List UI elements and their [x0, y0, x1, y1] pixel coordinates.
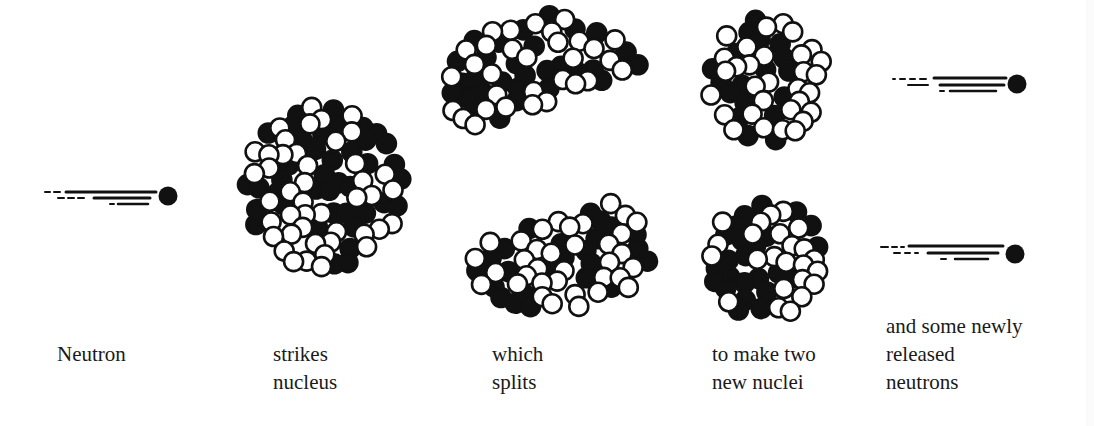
incoming-neutron-icon	[159, 187, 178, 206]
neutron-particle-icon	[783, 22, 802, 41]
neutron-particle-icon	[482, 64, 501, 83]
neutron-particle-icon	[245, 164, 264, 183]
motion-trail-icon	[45, 192, 156, 204]
neutron-particle-icon	[312, 257, 331, 276]
neutron-particle-icon	[298, 156, 317, 175]
neutron-particle-icon	[702, 86, 721, 105]
fission-diagram: Neutron strikes nucleus which splits to …	[0, 0, 1094, 426]
neutron-particle-icon	[564, 49, 583, 68]
released-neutron-2-group	[881, 245, 1025, 264]
label-strikes-line-1: strikes	[273, 340, 337, 368]
neutron-particle-icon	[565, 236, 584, 255]
neutron-particle-icon	[549, 33, 568, 52]
neutron-particle-icon	[284, 252, 303, 271]
label-neutron: Neutron	[57, 340, 126, 368]
neutron-particle-icon	[789, 219, 808, 238]
neutron-particle-icon	[501, 21, 520, 40]
neutron-particle-icon	[523, 95, 542, 114]
neutron-particle-icon	[442, 67, 461, 86]
neutron-particle-icon	[357, 237, 376, 256]
neutron-particle-icon	[724, 120, 743, 139]
neutron-particle-icon	[384, 181, 403, 200]
label-which-splits: which splits	[492, 340, 543, 396]
incoming-neutron-group	[45, 187, 178, 206]
neutron-particle-icon	[517, 48, 536, 67]
neutron-particle-icon	[542, 244, 561, 263]
neutron-particle-icon	[713, 213, 732, 232]
neutron-particle-icon	[260, 192, 279, 211]
neutron-particle-icon	[347, 188, 366, 207]
neutron-particle-icon	[748, 250, 767, 269]
label-to-make-line-1: to make two	[712, 340, 816, 368]
neutron-particle-icon	[465, 55, 484, 74]
proton-icon	[377, 134, 396, 153]
page-edge	[1086, 0, 1094, 426]
label-to-make-line-2: new nuclei	[712, 368, 816, 396]
motion-trail-icon	[881, 246, 1003, 259]
label-strikes-line-2: nucleus	[273, 368, 337, 396]
nuclei-layer	[238, 6, 831, 321]
neutron-particle-icon	[569, 297, 588, 316]
new-nucleus-1	[702, 11, 831, 149]
neutron-particle-icon	[589, 283, 608, 302]
target-nucleus	[238, 98, 410, 276]
label-released-line-3: neutrons	[886, 368, 1022, 396]
neutron-particle-icon	[719, 292, 738, 311]
released-neutron-1-icon	[1008, 75, 1027, 94]
neutron-particle-icon	[508, 274, 527, 293]
neutron-particle-icon	[717, 26, 736, 45]
neutron-particle-icon	[533, 220, 552, 239]
neutron-particle-icon	[774, 279, 793, 298]
neutron-particle-icon	[481, 233, 500, 252]
neutron-particle-icon	[737, 38, 756, 57]
label-which-line-1: which	[492, 340, 543, 368]
proton-icon	[320, 181, 339, 200]
label-strikes-nucleus: strikes nucleus	[273, 340, 337, 396]
label-which-line-2: splits	[492, 368, 543, 396]
neutron-particle-icon	[472, 275, 491, 294]
neutron-particle-icon	[786, 121, 805, 140]
label-to-make-two-new-nuclei: to make two new nuclei	[712, 340, 816, 396]
neutron-particle-icon	[543, 294, 562, 313]
neutron-particle-icon	[777, 253, 796, 272]
neutron-particle-icon	[716, 62, 735, 81]
label-released-line-2: released	[886, 340, 1022, 368]
neutron-particle-icon	[300, 114, 319, 133]
neutron-particle-icon	[585, 39, 604, 58]
neutron-particle-icon	[560, 218, 579, 237]
motion-trail-icon	[893, 78, 1006, 91]
neutron-particle-icon	[613, 61, 632, 80]
released-neutron-1-group	[893, 75, 1027, 94]
neutron-particle-icon	[702, 247, 721, 266]
released-neutron-2-icon	[1006, 245, 1025, 264]
new-nucleus-2	[702, 196, 827, 321]
fragment-top	[442, 6, 647, 134]
neutron-particle-icon	[757, 18, 776, 37]
label-released-line-1: and some newly	[886, 312, 1022, 340]
label-neutron-line-1: Neutron	[57, 340, 126, 368]
neutron-particle-icon	[466, 115, 485, 134]
neutron-particle-icon	[807, 65, 826, 84]
neutron-particle-icon	[566, 74, 585, 93]
neutron-particle-icon	[619, 278, 638, 297]
neutron-particle-icon	[326, 132, 345, 151]
label-released-neutrons: and some newly released neutrons	[886, 312, 1022, 396]
neutron-particle-icon	[496, 98, 515, 117]
neutron-particle-icon	[466, 249, 485, 268]
neutron-particle-icon	[477, 36, 496, 55]
fragment-bottom	[466, 194, 657, 316]
neutron-particle-icon	[781, 302, 800, 321]
neutron-particle-icon	[606, 30, 625, 49]
neutron-particle-icon	[743, 225, 762, 244]
neutron-particle-icon	[754, 118, 773, 137]
